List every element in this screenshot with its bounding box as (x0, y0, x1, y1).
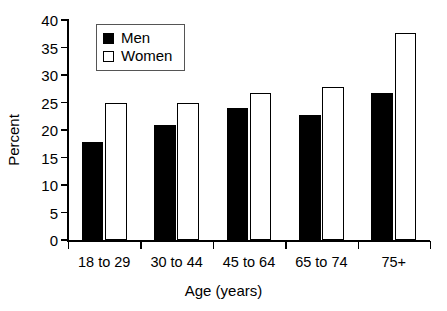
bar-group (285, 20, 357, 240)
y-axis-tick-label: 25 (4, 95, 58, 110)
x-axis-category-label: 30 to 44 (150, 254, 202, 270)
legend-swatch-men-icon (103, 33, 114, 44)
bar-women-4 (395, 33, 417, 240)
x-axis-category-label: 65 to 74 (295, 254, 347, 270)
legend-item-women: Women (103, 47, 172, 65)
x-axis-title: Age (years) (0, 282, 447, 299)
bar-women-1 (177, 103, 199, 241)
bar-women-0 (105, 103, 127, 241)
x-axis-tick (358, 241, 359, 249)
x-axis-tick (430, 241, 431, 249)
y-axis-tick-label: 40 (4, 13, 58, 28)
legend-item-men: Men (103, 29, 172, 47)
bar-men-0 (82, 142, 104, 240)
legend-label-men: Men (121, 29, 150, 47)
bar-men-4 (371, 93, 393, 240)
bar-women-2 (250, 93, 272, 240)
bar-men-2 (227, 108, 249, 240)
bar-group (358, 20, 430, 240)
bar-chart: Percent 0510152025303540 18 to 2930 to 4… (0, 0, 447, 311)
x-axis-tick (213, 241, 214, 249)
x-axis-category-label: 45 to 64 (223, 254, 275, 270)
x-axis-category-label: 18 to 29 (78, 254, 130, 270)
bar-men-1 (154, 125, 176, 241)
y-axis-tick-label: 30 (4, 68, 58, 83)
legend-label-women: Women (121, 47, 172, 65)
y-axis-tick-label: 0 (4, 233, 58, 248)
y-axis-tick-label: 5 (4, 205, 58, 220)
y-axis-tick-label: 20 (4, 123, 58, 138)
y-axis-tick-label: 10 (4, 178, 58, 193)
bar-men-3 (299, 115, 321, 240)
y-axis-tick-label: 35 (4, 40, 58, 55)
y-axis-tick-label: 15 (4, 150, 58, 165)
x-axis-tick (140, 241, 141, 249)
x-axis-tick-origin (68, 241, 69, 249)
y-axis-tick-labels: 0510152025303540 (0, 0, 58, 311)
x-axis-category-label: 75+ (381, 254, 406, 270)
x-axis-tick (285, 241, 286, 249)
legend: Men Women (96, 24, 185, 71)
legend-swatch-women-icon (103, 51, 114, 62)
bar-group (213, 20, 285, 240)
bar-women-3 (322, 87, 344, 240)
x-axis-line (67, 240, 430, 242)
